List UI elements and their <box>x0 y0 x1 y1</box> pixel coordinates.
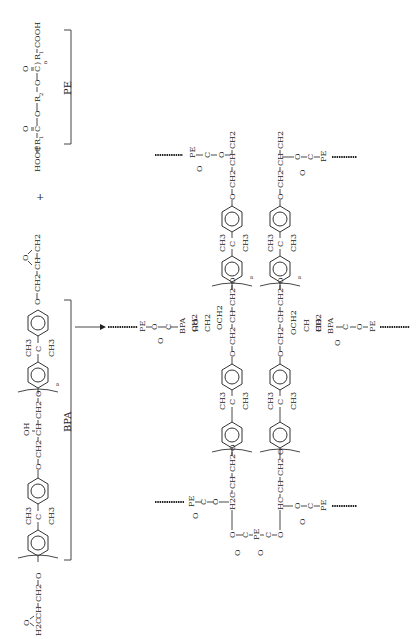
svg-text:CH3: CH3 <box>47 507 56 525</box>
svg-text:CH2: CH2 <box>228 170 237 188</box>
svg-text:HC: HC <box>276 497 285 510</box>
epoxy-reactant: O CH2 CH CH2 O C CH3 CH3 <box>18 234 73 636</box>
svg-text:O: O <box>21 65 30 72</box>
svg-text:O: O <box>276 350 285 357</box>
svg-text:CH3: CH3 <box>47 339 56 357</box>
svg-text:O: O <box>228 350 237 357</box>
svg-text:PE: PE <box>368 321 377 332</box>
svg-text:CH: CH <box>33 257 42 270</box>
svg-text:CH2: CH2 <box>276 288 285 306</box>
svg-text:O: O <box>228 277 237 284</box>
svg-text:O: O <box>150 323 159 330</box>
svg-text:OCH2: OCH2 <box>289 310 298 335</box>
svg-text:O: O <box>228 531 237 538</box>
svg-text:H2C: H2C <box>34 618 43 636</box>
svg-text:CH3: CH3 <box>289 392 298 410</box>
svg-text:CH: CH <box>228 476 237 489</box>
svg-text:CH2: CH2 <box>228 131 237 149</box>
svg-text:PE: PE <box>187 496 196 507</box>
c1-text: C <box>33 126 42 132</box>
svg-text:O: O <box>21 125 30 132</box>
svg-text:O: O <box>217 151 226 158</box>
polyester-reactant: HOOC ( R 1 C O O R 2 O C O ) n R 1 COOH <box>21 22 73 172</box>
svg-text:O: O <box>33 298 42 305</box>
svg-text:CH2: CH2 <box>228 327 237 345</box>
reaction-diagram: HOOC ( R 1 C O O R 2 O C O ) n R 1 COOH <box>0 0 417 639</box>
svg-text:n: n <box>298 274 302 280</box>
svg-text:C: C <box>264 532 273 538</box>
svg-text:CH3: CH3 <box>289 234 298 252</box>
svg-text:n: n <box>56 381 60 387</box>
svg-text:O: O <box>21 254 30 261</box>
svg-text:): ) <box>33 62 42 65</box>
svg-text:CH: CH <box>34 423 43 436</box>
svg-text:C: C <box>276 241 285 247</box>
svg-text:C: C <box>228 241 237 247</box>
svg-text:CH2: CH2 <box>190 314 199 332</box>
svg-text:O: O <box>298 169 307 176</box>
svg-text:O: O <box>333 339 342 346</box>
reaction-arrow <box>75 324 106 330</box>
svg-text:C: C <box>203 152 212 158</box>
plus-sign: + <box>36 191 44 202</box>
svg-text:O: O <box>34 390 43 397</box>
svg-text:PE: PE <box>138 321 147 332</box>
svg-text:CH2: CH2 <box>203 314 212 332</box>
svg-text:CH2: CH2 <box>34 401 43 419</box>
svg-text:C: C <box>228 399 237 405</box>
svg-text:O: O <box>195 165 204 172</box>
svg-text:O: O <box>233 549 242 556</box>
svg-text:O: O <box>22 619 31 626</box>
svg-text:CH2: CH2 <box>34 584 43 602</box>
svg-text:O: O <box>276 448 285 455</box>
benzene-ring <box>28 362 48 388</box>
svg-text:COOH: COOH <box>33 22 42 48</box>
svg-text:CH3: CH3 <box>241 234 250 252</box>
svg-text:PE: PE <box>319 500 328 511</box>
svg-text:OCH2: OCH2 <box>215 305 224 330</box>
svg-text:OH: OH <box>22 422 31 436</box>
svg-text:O: O <box>276 193 285 200</box>
svg-text:O: O <box>293 502 302 509</box>
svg-text:CH: CH <box>228 153 237 166</box>
svg-text:O: O <box>276 531 285 538</box>
svg-text:C: C <box>34 514 43 520</box>
svg-text:CH: CH <box>302 319 311 332</box>
svg-text:CH2: CH2 <box>228 288 237 306</box>
svg-text:BPA: BPA <box>326 317 335 334</box>
svg-text:CH3: CH3 <box>24 339 33 357</box>
svg-text:1: 1 <box>38 51 44 54</box>
svg-text:CH3: CH3 <box>266 234 275 252</box>
benzene-ring <box>28 478 48 504</box>
svg-text:1: 1 <box>38 136 44 139</box>
svg-text:CH: CH <box>228 310 237 323</box>
svg-text:C: C <box>276 399 285 405</box>
svg-text:CH3: CH3 <box>266 392 275 410</box>
svg-text:C: C <box>341 324 350 330</box>
svg-text:CH: CH <box>276 153 285 166</box>
svg-text:BPA: BPA <box>178 317 187 334</box>
svg-text:O: O <box>228 193 237 200</box>
svg-text:PE: PE <box>252 529 261 540</box>
svg-text:O: O <box>33 79 42 86</box>
svg-text:CH2: CH2 <box>314 314 323 332</box>
crosslinked-product: PE C O O O CH2 CH CH2 C CH3 CH3 n <box>108 131 410 556</box>
benzene-ring <box>28 530 48 556</box>
bpa-label: BPA <box>62 411 73 432</box>
svg-text:PE: PE <box>319 151 328 162</box>
svg-text:O: O <box>191 512 200 519</box>
svg-text:C: C <box>306 154 315 160</box>
svg-text:O: O <box>34 572 43 579</box>
svg-text:CH2: CH2 <box>276 170 285 188</box>
svg-text:H2C: H2C <box>228 492 237 510</box>
svg-text:CH: CH <box>34 606 43 619</box>
svg-text:CH2: CH2 <box>228 454 237 472</box>
svg-text:CH3: CH3 <box>24 507 33 525</box>
svg-text:C: C <box>33 66 42 72</box>
benzene-ring <box>28 310 48 336</box>
svg-text:O: O <box>156 337 165 344</box>
svg-text:O: O <box>34 463 43 470</box>
svg-text:2: 2 <box>38 93 44 96</box>
svg-text:O: O <box>276 277 285 284</box>
svg-text:CH2: CH2 <box>276 131 285 149</box>
